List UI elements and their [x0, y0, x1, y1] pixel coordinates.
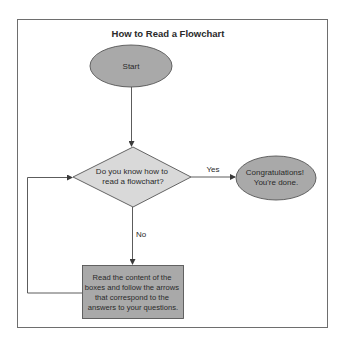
node-done: Congratulations! You're done. [236, 156, 316, 200]
node-process: Read the content of the boxes and follow… [83, 266, 184, 319]
node-decision-label: Do you know how to read a flowchart? [96, 167, 170, 186]
node-done-label: Congratulations! You're done. [246, 168, 307, 187]
diagram-title: How to Read a Flowchart [112, 28, 226, 39]
node-start-label: Start [123, 62, 141, 71]
edge-label-no: No [136, 230, 147, 239]
node-start: Start [90, 45, 172, 87]
node-process-label: Read the content of the boxes and follow… [85, 273, 181, 312]
edge-label-yes: Yes [206, 165, 219, 174]
flowchart-diagram: How to Read a Flowchart Start Do you kno… [0, 0, 338, 342]
